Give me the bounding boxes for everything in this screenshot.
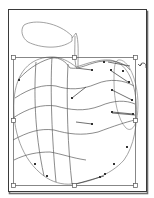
artboard	[0, 0, 154, 198]
